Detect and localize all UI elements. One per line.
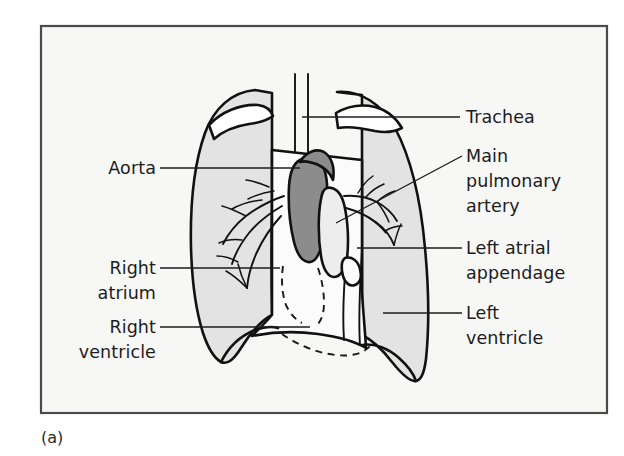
label-trachea: Trachea [465, 107, 535, 127]
label-left-atrial-appendage-line1: Left atrial [466, 238, 551, 258]
label-right-ventricle-line1: Right [109, 317, 156, 337]
figure-container: Trachea Main pulmonary artery Left atria… [0, 0, 624, 456]
label-left-ventricle-line2: ventricle [466, 328, 543, 348]
label-aorta: Aorta [108, 158, 156, 178]
left-atrial-appendage [342, 258, 361, 286]
label-right-ventricle-line2: ventricle [79, 342, 156, 362]
label-main-pulmonary-artery-line3: artery [466, 196, 520, 216]
label-main-pulmonary-artery-line1: Main [466, 146, 508, 166]
label-left-atrial-appendage-line2: appendage [466, 263, 565, 283]
right-atrium [271, 200, 272, 312]
label-left-ventricle-line1: Left [466, 303, 499, 323]
chest-anatomy-diagram: Trachea Main pulmonary artery Left atria… [0, 0, 624, 456]
figure-caption: (a) [41, 428, 63, 447]
label-right-atrium-line1: Right [109, 258, 156, 278]
label-right-atrium-line2: atrium [98, 283, 156, 303]
label-main-pulmonary-artery-line2: pulmonary [466, 171, 561, 191]
